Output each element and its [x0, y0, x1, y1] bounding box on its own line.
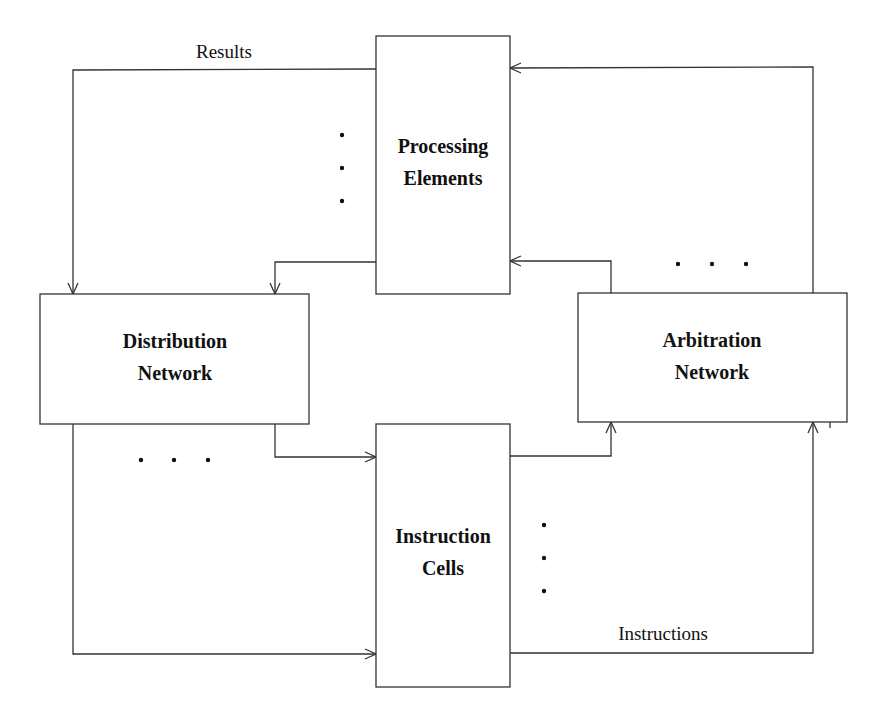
instruction-cells-label-line2: Cells — [422, 557, 464, 579]
dataflow-architecture-diagram: Processing Elements Distribution Network… — [0, 0, 880, 721]
distribution-to-ic-top-wire — [275, 424, 376, 457]
arbitration-network-block: Arbitration Network — [578, 293, 847, 422]
distribution-to-ic-bottom-wire — [73, 424, 376, 654]
instruction-cells-block: Instruction Cells — [376, 424, 510, 687]
arbitration-network-label-line1: Arbitration — [663, 329, 762, 351]
processing-elements-label-line1: Processing — [398, 135, 489, 158]
instructions-label: Instructions — [618, 623, 708, 644]
ellipsis-dot — [542, 556, 546, 560]
ellipsis-dot — [340, 199, 344, 203]
pe-to-distribution-wire — [275, 262, 376, 294]
ellipsis-dot — [710, 262, 714, 266]
instruction-cells-label-line1: Instruction — [395, 525, 491, 547]
processing-elements-block: Processing Elements — [376, 36, 510, 294]
arbitration-network-label-line2: Network — [675, 361, 750, 383]
ic-to-arbitration-top-wire — [510, 422, 611, 456]
distribution-network-label-line1: Distribution — [123, 330, 227, 352]
arbitration-ellipsis — [676, 262, 748, 266]
instruction-cells-ellipsis — [542, 523, 546, 593]
ellipsis-dot — [340, 166, 344, 170]
arbitration-to-pe-bottom-wire — [510, 261, 611, 293]
ellipsis-dot — [340, 133, 344, 137]
results-label: Results — [196, 41, 252, 62]
ellipsis-dot — [206, 458, 210, 462]
distribution-ellipsis — [139, 458, 210, 462]
ellipsis-dot — [676, 262, 680, 266]
processing-elements-label-line2: Elements — [404, 167, 483, 189]
ellipsis-dot — [542, 523, 546, 527]
distribution-network-block: Distribution Network — [40, 294, 309, 424]
results-wire — [73, 69, 376, 294]
arbitration-to-pe-top-wire — [510, 67, 813, 293]
ellipsis-dot — [542, 589, 546, 593]
ellipsis-dot — [172, 458, 176, 462]
ellipsis-dot — [139, 458, 143, 462]
distribution-network-label-line2: Network — [138, 362, 213, 384]
ellipsis-dot — [744, 262, 748, 266]
processing-elements-ellipsis — [340, 133, 344, 203]
